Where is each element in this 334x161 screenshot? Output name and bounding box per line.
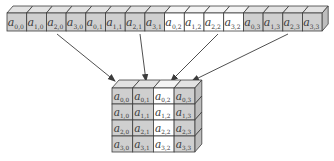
mapping-arrow: [171, 34, 218, 81]
matrix-cell: a3,1: [133, 136, 154, 152]
matrix-cell: a2,3: [174, 120, 195, 136]
memory-layout-diagram: a0,0a1,0a2,0a3,0a0,1a1,1a2,1a3,1a0,2a1,2…: [0, 0, 334, 161]
matrix-block-4x4: a0,0a0,1a0,2a0,3a1,0a1,1a1,2a1,3a2,0a2,1…: [112, 80, 202, 152]
matrix-cell: a0,2: [153, 88, 174, 104]
linear-memory-strip: a0,0a1,0a2,0a3,0a0,1a1,1a2,1a3,1a0,2a1,2…: [7, 6, 328, 31]
matrix-cell: a0,1: [133, 88, 154, 104]
matrix-cell: a1,1: [133, 104, 154, 120]
mapping-arrow: [57, 34, 115, 81]
mapping-arrow: [192, 34, 288, 81]
mapping-arrow: [140, 34, 146, 81]
matrix-cell: a0,3: [174, 88, 195, 104]
mapping-arrows: [57, 34, 288, 81]
matrix-cell: a1,0: [112, 104, 133, 120]
matrix-cell: a3,0: [112, 136, 133, 152]
matrix-cell: a2,2: [153, 120, 174, 136]
matrix-cell: a2,0: [112, 120, 133, 136]
matrix-cell: a2,1: [133, 120, 154, 136]
matrix-cell: a0,0: [112, 88, 133, 104]
matrix-cell: a1,2: [153, 104, 174, 120]
matrix-cell: a3,3: [174, 136, 195, 152]
matrix-cell: a3,2: [153, 136, 174, 152]
matrix-cell: a1,3: [174, 104, 195, 120]
